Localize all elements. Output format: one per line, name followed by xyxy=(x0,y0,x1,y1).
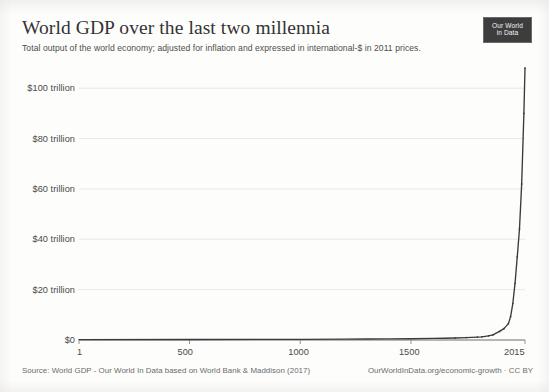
series-point xyxy=(477,336,479,338)
series-point xyxy=(488,335,490,337)
series-point xyxy=(524,67,526,69)
y-tick-label: $20 trillion xyxy=(3,285,75,295)
series-point xyxy=(521,183,523,185)
chart-svg xyxy=(0,0,549,392)
series-point xyxy=(514,283,516,285)
series-point xyxy=(465,337,467,339)
x-tick-label: 1 xyxy=(77,347,82,357)
series-point xyxy=(481,336,483,338)
series-point xyxy=(499,331,501,333)
y-tick-label: $80 trillion xyxy=(3,134,75,144)
chart-footer: Source: World GDP - Our World In Data ba… xyxy=(22,366,533,375)
x-tick-label: 2015 xyxy=(504,347,525,357)
series-point xyxy=(510,316,512,318)
series-line-world-gdp xyxy=(79,68,525,339)
series-point xyxy=(523,113,525,115)
series-point xyxy=(492,334,494,336)
series-point xyxy=(503,328,505,330)
y-tick-label: $0 xyxy=(3,335,75,345)
y-tick-label: $60 trillion xyxy=(3,184,75,194)
source-note: Source: World GDP - Our World In Data ba… xyxy=(22,366,310,375)
y-tick-label: $100 trillion xyxy=(3,83,75,93)
series-point xyxy=(454,337,456,339)
series-point xyxy=(508,323,510,325)
chart-plot-area xyxy=(0,0,549,392)
chart-screenshot: World GDP over the last two millennia To… xyxy=(0,0,549,392)
x-tick-label: 1000 xyxy=(288,347,309,357)
attribution-note[interactable]: OurWorldInData.org/economic-growth · CC … xyxy=(368,366,533,375)
x-tick-label: 1500 xyxy=(399,347,420,357)
series-point xyxy=(516,256,518,258)
series-point xyxy=(519,228,521,230)
series-point xyxy=(512,303,514,305)
y-tick-label: $40 trillion xyxy=(3,234,75,244)
x-tick-label: 500 xyxy=(178,347,193,357)
